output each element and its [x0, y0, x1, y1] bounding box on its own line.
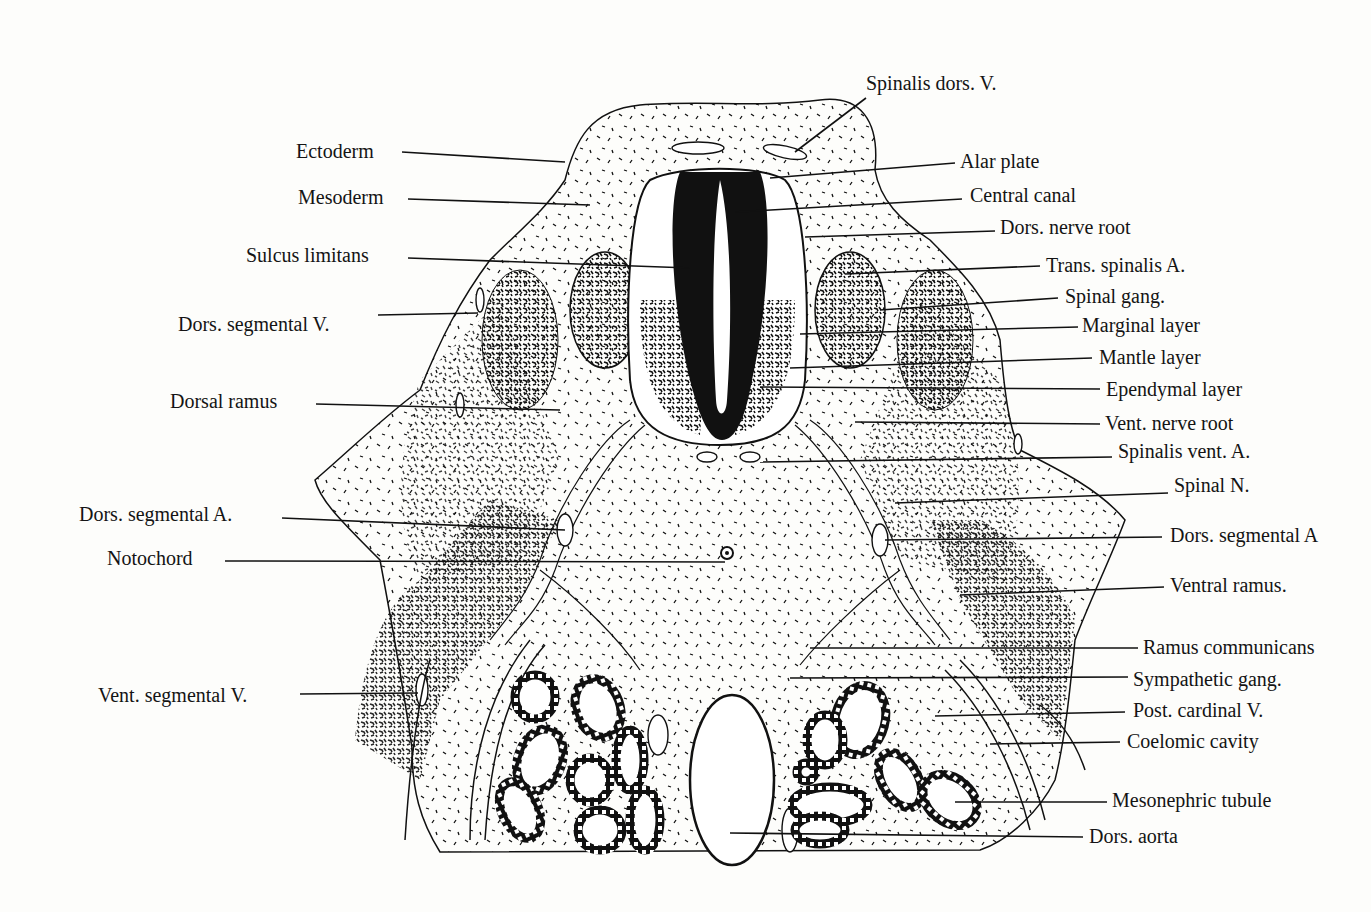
label-alar-plate: Alar plate — [960, 150, 1039, 172]
label-central-canal: Central canal — [970, 184, 1076, 206]
label-vent-segmental-v: Vent. segmental V. — [98, 684, 247, 706]
label-ependymal-layer: Ependymal layer — [1106, 378, 1242, 400]
label-mantle-layer: Mantle layer — [1099, 346, 1201, 368]
label-post-cardinal-v: Post. cardinal V. — [1133, 699, 1263, 721]
label-coelomic-cavity: Coelomic cavity — [1127, 730, 1259, 752]
label-spinal-gang: Spinal gang. — [1065, 285, 1165, 307]
leader-line-sympathetic-gang — [790, 677, 1128, 678]
label-sulcus-limitans: Sulcus limitans — [246, 244, 369, 266]
label-dors-segmental-v: Dors. segmental V. — [178, 313, 329, 335]
label-dorsal-ramus: Dorsal ramus — [170, 390, 277, 412]
label-ventral-ramus: Ventral ramus. — [1170, 574, 1287, 596]
label-vent-nerve-root: Vent. nerve root — [1105, 412, 1233, 434]
label-mesonephric-tubule: Mesonephric tubule — [1112, 789, 1271, 811]
label-dors-nerve-root: Dors. nerve root — [1000, 216, 1131, 238]
label-mesoderm: Mesoderm — [298, 186, 384, 208]
leader-line-vent-segmental-v — [300, 693, 418, 694]
dorsal-aorta-structure — [690, 695, 774, 865]
label-sympathetic-gang: Sympathetic gang. — [1133, 668, 1282, 690]
label-ectoderm: Ectoderm — [296, 140, 374, 162]
label-dors-aorta: Dors. aorta — [1089, 825, 1178, 847]
label-spinalis-dors-v: Spinalis dors. V. — [866, 72, 996, 94]
label-notochord: Notochord — [107, 547, 193, 569]
label-spinal-n: Spinal N. — [1174, 474, 1250, 496]
label-dors-segmental-a-left: Dors. segmental A. — [79, 503, 232, 525]
leader-line-ectoderm — [402, 152, 565, 162]
label-marginal-layer: Marginal layer — [1082, 314, 1200, 336]
label-trans-spinalis-a: Trans. spinalis A. — [1046, 254, 1185, 276]
label-spinalis-vent-a: Spinalis vent. A. — [1118, 440, 1250, 462]
label-ramus-communicans: Ramus communicans — [1143, 636, 1315, 658]
label-dors-segmental-a-right: Dors. segmental A — [1170, 524, 1318, 546]
leader-line-notochord — [225, 561, 725, 562]
notochord-structure — [721, 547, 733, 559]
